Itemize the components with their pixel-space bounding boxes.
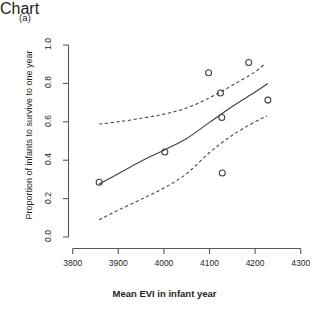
x-tick-label-0: 3800 [56, 258, 90, 268]
x-tick-label-3: 4100 [193, 258, 227, 268]
data-point-4 [219, 115, 225, 121]
fitted-curve [99, 83, 268, 184]
x-tick-label-5: 4300 [284, 258, 318, 268]
y-tick-label-2: 0.4 [43, 146, 53, 172]
x-tick-label-1: 3900 [101, 258, 135, 268]
data-point-2 [206, 70, 212, 76]
chart-panel: (a) Proportion of infants to survive to … [0, 0, 329, 314]
y-tick-label-4: 0.8 [43, 69, 53, 95]
y-tick-label-5: 1.0 [43, 31, 53, 57]
data-point-7 [265, 97, 271, 103]
x-tick-label-2: 4000 [147, 258, 181, 268]
data-point-6 [246, 59, 252, 65]
data-point-5 [219, 170, 225, 176]
upper-confidence-band [99, 63, 265, 124]
y-tick-label-3: 0.6 [43, 108, 53, 134]
lower-confidence-band [99, 116, 267, 220]
y-tick-label-0: 0.0 [43, 223, 53, 249]
y-tick-label-1: 0.2 [43, 185, 53, 211]
x-tick-label-4: 4200 [238, 258, 272, 268]
